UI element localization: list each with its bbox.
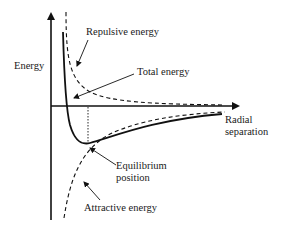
total-pointer-arrow xyxy=(74,74,134,98)
x-axis-label-line2: separation xyxy=(225,126,268,138)
equilibrium-label-line2: position xyxy=(116,172,150,184)
attractive-energy-label: Attractive energy xyxy=(84,202,157,214)
y-axis-label: Energy xyxy=(14,60,44,72)
total-energy-label: Total energy xyxy=(137,66,189,78)
attractive-pointer-arrow xyxy=(84,182,100,200)
repulsive-energy-label: Repulsive energy xyxy=(86,26,159,38)
total-energy-curve xyxy=(63,32,222,144)
repulsive-pointer-arrow xyxy=(77,40,88,66)
equilibrium-pointer-arrow xyxy=(90,148,116,165)
equilibrium-label-line1: Equilibrium xyxy=(116,160,167,172)
x-axis-label-line1: Radial xyxy=(225,114,252,126)
